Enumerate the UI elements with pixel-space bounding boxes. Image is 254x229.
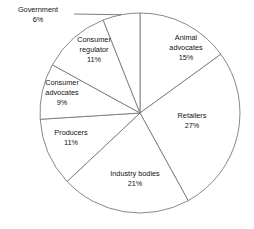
pie-label-animal-advocates-text: Animal [175, 33, 198, 42]
pie-chart: Animaladvocates15%Retailers27%Industry b… [0, 0, 254, 229]
pie-label-consumer-advocates-text: Consumer [45, 78, 79, 87]
pie-label-retailers-text: Retailers [178, 111, 207, 120]
pie-label-consumer-advocates-text: advocates [45, 88, 79, 97]
government-leader-line [74, 14, 121, 15]
pie-label-producers-text: Producers [54, 128, 88, 137]
pie-label-industry-bodies-value: 21% [128, 179, 143, 188]
pie-label-consumer-regulator-text: Consumer [77, 35, 111, 44]
pie-label-animal-advocates-text: advocates [169, 43, 203, 52]
pie-label-government-value: 6% [33, 15, 44, 24]
leader-lines-group [74, 14, 121, 15]
pie-label-consumer-regulator-text: regulator [80, 45, 109, 54]
pie-label-animal-advocates-value: 15% [179, 53, 194, 62]
pie-label-consumer-regulator-value: 11% [87, 55, 102, 64]
pie-label-industry-bodies-text: Industry bodies [110, 169, 160, 178]
pie-label-retailers-value: 27% [185, 121, 200, 130]
pie-chart-canvas: Animaladvocates15%Retailers27%Industry b… [0, 0, 254, 229]
pie-label-consumer-advocates-value: 9% [57, 98, 68, 107]
pie-label-government-text: Government [18, 5, 58, 14]
pie-label-producers-value: 11% [64, 138, 79, 147]
